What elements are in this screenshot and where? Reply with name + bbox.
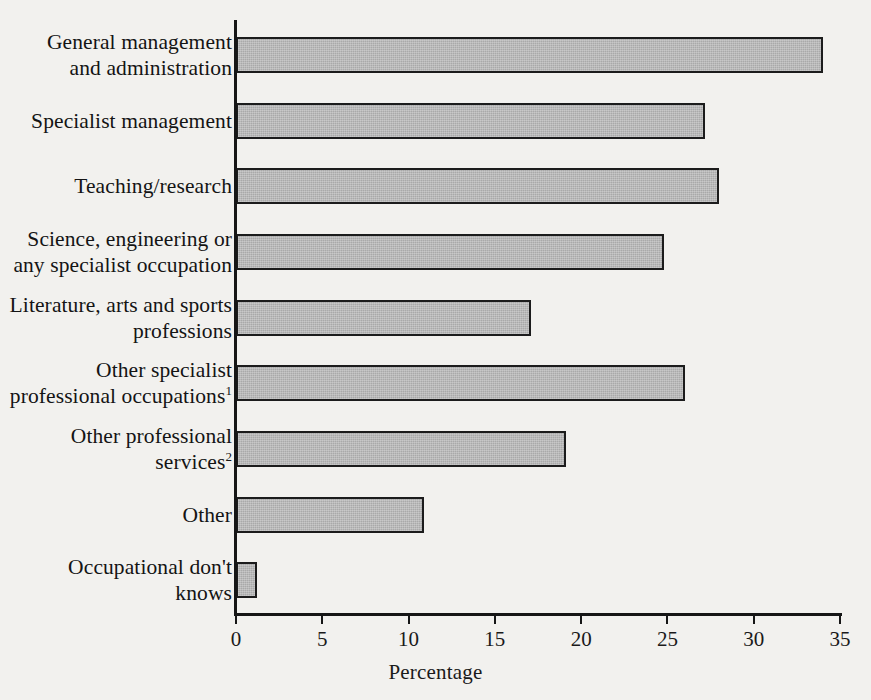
x-axis-tick-label: 30 <box>724 626 784 652</box>
bar <box>236 37 823 73</box>
category-label: Occupational don'tknows <box>68 554 232 606</box>
bar <box>236 103 705 139</box>
plot-area <box>236 22 840 613</box>
bar-row <box>236 431 840 467</box>
x-axis-tick-label: 25 <box>637 626 697 652</box>
category-label: Other <box>183 502 232 528</box>
x-axis-tick <box>235 613 237 624</box>
x-axis-tick-label: 15 <box>465 626 525 652</box>
category-label: Teaching/research <box>74 173 232 199</box>
x-axis-tick <box>321 613 323 624</box>
bar <box>236 431 566 467</box>
bar-row <box>236 365 840 401</box>
x-axis-tick <box>408 613 410 624</box>
bar <box>236 234 664 270</box>
x-axis-tick <box>753 613 755 624</box>
bar-row <box>236 103 840 139</box>
category-label: Specialist management <box>31 108 232 134</box>
bar-row <box>236 168 840 204</box>
bar <box>236 300 531 336</box>
bar <box>236 497 424 533</box>
x-axis-tick <box>580 613 582 624</box>
x-axis-line <box>234 613 842 616</box>
bar-row <box>236 300 840 336</box>
x-axis-tick-label: 10 <box>379 626 439 652</box>
x-axis-tick-label: 20 <box>551 626 611 652</box>
x-axis-title: Percentage <box>0 660 871 685</box>
x-axis-tick <box>839 613 841 624</box>
category-label: Other specialistprofessional occupations… <box>10 357 232 409</box>
bar-row <box>236 497 840 533</box>
category-label: General managementand administration <box>47 29 232 81</box>
bar-row <box>236 37 840 73</box>
category-label: Science, engineering orany specialist oc… <box>13 226 232 278</box>
bar-row <box>236 562 840 598</box>
y-axis-line <box>234 20 237 615</box>
bar-chart: General managementand administrationSpec… <box>0 0 871 700</box>
x-axis-tick-label: 35 <box>810 626 870 652</box>
x-axis-tick-label: 0 <box>206 626 266 652</box>
x-axis-tick-label: 5 <box>292 626 352 652</box>
bar <box>236 562 257 598</box>
category-label: Other professionalservices2 <box>71 423 232 475</box>
bar <box>236 168 719 204</box>
x-axis-tick <box>666 613 668 624</box>
category-label: Literature, arts and sportsprofessions <box>10 292 232 344</box>
x-axis-tick <box>494 613 496 624</box>
bar-row <box>236 234 840 270</box>
bar <box>236 365 685 401</box>
